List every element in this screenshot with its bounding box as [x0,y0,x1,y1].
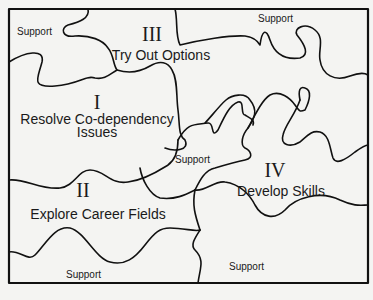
boundary-line [9,9,117,86]
support-label: Support [229,262,264,272]
diagram-canvas [0,0,373,300]
region-iii-title: Try Out Options [112,48,210,62]
boundary-line [282,100,368,161]
boundary-line [140,168,195,198]
boundary-line [9,140,178,188]
support-label: Support [258,14,293,24]
boundary-line [193,230,201,283]
boundary-line [117,63,186,150]
region-iv-numeral: IV [264,160,285,180]
boundary-line [195,95,255,190]
region-i-numeral: I [94,92,101,112]
region-iii-numeral: III [142,24,162,44]
boundary-line [9,228,200,263]
boundary-line [178,102,253,140]
region-ii-title: Explore Career Fields [30,207,165,221]
support-label: Support [175,155,210,165]
support-label: Support [17,27,52,37]
region-iv-title: Develop Skills [237,184,325,198]
boundary-line [248,88,310,129]
boundary-line [194,190,200,230]
region-i-title-line2: Issues [77,125,117,139]
region-ii-numeral: II [76,180,89,200]
support-label: Support [66,270,101,280]
